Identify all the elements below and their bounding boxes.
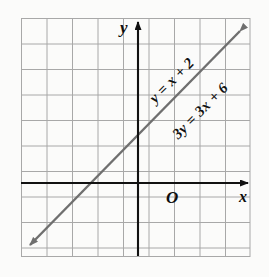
coordinate-plane-svg (0, 0, 269, 277)
plotted-line-y-equals-x-plus-2 (30, 31, 240, 245)
y-axis-label: y (120, 18, 128, 38)
math-figure-coordinate-plane: y = x + 2 3y = 3x + 6 y x O (0, 0, 269, 277)
x-axis-label: x (239, 188, 247, 206)
origin-label: O (166, 188, 178, 208)
